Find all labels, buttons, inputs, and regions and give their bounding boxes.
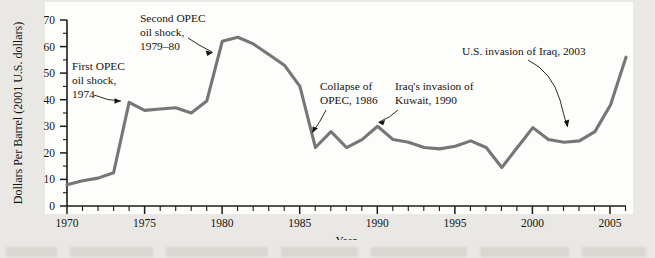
x-tick-label-1975: 1975 bbox=[133, 217, 156, 229]
caption-text-blur bbox=[6, 247, 646, 257]
y-tick-label-0: 0 bbox=[49, 200, 55, 212]
y-tick-label-50: 50 bbox=[44, 67, 56, 79]
annotation-5-arrowhead bbox=[564, 120, 569, 128]
annotation-iraq-invasion-of-kuwait: Iraq's invasion of Kuwait, 1990 bbox=[378, 80, 474, 125]
oil-price-figure: Dollars Per Barrel (2001 U.S. dollars) bbox=[0, 0, 655, 258]
annotation-2-line-2: oil shock, bbox=[140, 26, 184, 38]
x-tick-label-2005: 2005 bbox=[599, 217, 622, 229]
annotation-2-line-1: Second OPEC bbox=[140, 12, 206, 24]
y-tick-label-70: 70 bbox=[44, 14, 56, 26]
annotation-first-opec-oil-shock: First OPEC oil shock, 1974 bbox=[72, 60, 125, 104]
annotation-5-line-1: U.S. invasion of Iraq, 2003 bbox=[462, 45, 586, 57]
x-tick-label-1990: 1990 bbox=[366, 217, 389, 229]
x-tick-label-1995: 1995 bbox=[443, 217, 466, 229]
x-tick-label-2000: 2000 bbox=[521, 217, 544, 229]
annotation-second-opec-oil-shock: Second OPEC oil shock, 1979–80 bbox=[140, 12, 213, 56]
x-tick-label-1985: 1985 bbox=[288, 217, 311, 229]
y-axis-title: Dollars Per Barrel (2001 U.S. dollars) bbox=[11, 22, 25, 204]
y-tick-label-40: 40 bbox=[44, 94, 56, 106]
annotation-us-invasion-of-iraq: U.S. invasion of Iraq, 2003 bbox=[462, 45, 586, 128]
x-axis-major-ticks bbox=[67, 206, 610, 214]
x-tick-label-1980: 1980 bbox=[211, 217, 234, 229]
y-tick-label-10: 10 bbox=[44, 173, 56, 185]
y-tick-label-60: 60 bbox=[44, 41, 56, 53]
annotation-3-line-1: Collapse of bbox=[320, 80, 372, 92]
annotation-1-line-3: 1974 bbox=[72, 88, 95, 100]
annotation-1-arrowhead bbox=[115, 98, 122, 104]
y-tick-label-20: 20 bbox=[44, 147, 56, 159]
annotation-5-leader-line bbox=[528, 60, 567, 126]
annotation-4-line-2: Kuwait, 1990 bbox=[395, 94, 457, 106]
annotation-2-leader-line bbox=[188, 38, 212, 52]
annotation-4-line-1: Iraq's invasion of bbox=[395, 80, 474, 92]
chart-svg: Dollars Per Barrel (2001 U.S. dollars) bbox=[0, 0, 655, 258]
annotation-3-line-2: OPEC, 1986 bbox=[320, 94, 378, 106]
y-tick-label-30: 30 bbox=[44, 120, 56, 132]
x-tick-label-1970: 1970 bbox=[56, 217, 79, 229]
annotation-4-leader-line bbox=[379, 110, 398, 122]
page-right-margin bbox=[633, 0, 655, 258]
annotation-3-arrowhead bbox=[312, 127, 318, 133]
annotation-1-line-2: oil shock, bbox=[72, 74, 116, 86]
oil-price-line-series bbox=[67, 37, 626, 184]
annotation-1-line-1: First OPEC bbox=[72, 60, 125, 72]
annotation-2-line-3: 1979–80 bbox=[140, 40, 180, 52]
annotation-collapse-of-opec: Collapse of OPEC, 1986 bbox=[312, 80, 378, 133]
annotation-2-arrowhead bbox=[206, 51, 213, 56]
page-bottom-margin bbox=[0, 240, 655, 258]
